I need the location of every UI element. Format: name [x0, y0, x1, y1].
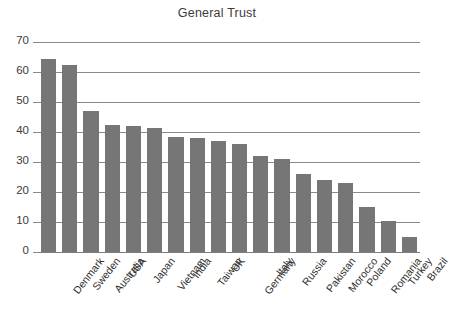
bar-slot	[187, 42, 208, 252]
bar[interactable]	[126, 126, 141, 252]
y-tick-label: 30	[16, 154, 29, 166]
bar[interactable]	[168, 137, 183, 253]
bar[interactable]	[359, 207, 374, 252]
bar[interactable]	[83, 111, 98, 252]
bar[interactable]	[105, 125, 120, 253]
bar-slot	[102, 42, 123, 252]
bar[interactable]	[41, 59, 56, 253]
bar[interactable]	[62, 65, 77, 253]
bar[interactable]	[317, 180, 332, 252]
bar-slot	[229, 42, 250, 252]
bar[interactable]	[402, 237, 417, 252]
bar[interactable]	[381, 221, 396, 253]
plot-area	[38, 42, 420, 252]
x-axis: DenmarkSwedenAustraliaUSAJapanVietnamInd…	[38, 253, 420, 323]
y-tick-label: 0	[23, 244, 29, 256]
bar[interactable]	[296, 174, 311, 252]
bar[interactable]	[274, 159, 289, 252]
bar-slot	[59, 42, 80, 252]
x-tick-label: Japan	[149, 255, 176, 285]
bar-slot	[208, 42, 229, 252]
bar-slot	[378, 42, 399, 252]
bar-slot	[399, 42, 420, 252]
bar-slot	[271, 42, 292, 252]
bar-slot	[314, 42, 335, 252]
bar[interactable]	[338, 183, 353, 252]
bar-slot	[80, 42, 101, 252]
y-tick-label: 50	[16, 94, 29, 106]
bar[interactable]	[211, 141, 226, 252]
bar-slot	[144, 42, 165, 252]
bar-slot	[356, 42, 377, 252]
bar[interactable]	[232, 144, 247, 252]
bar-slot	[335, 42, 356, 252]
y-tick-label: 60	[16, 64, 29, 76]
bar[interactable]	[253, 156, 268, 252]
bar-slot	[250, 42, 271, 252]
bar[interactable]	[147, 128, 162, 253]
y-tick-label: 70	[16, 34, 29, 46]
bar-slot	[123, 42, 144, 252]
bar-slot	[165, 42, 186, 252]
x-tick-label: Russia	[299, 255, 328, 288]
bar-slot	[38, 42, 59, 252]
y-axis: 706050403020100	[0, 42, 38, 253]
bar-slot	[293, 42, 314, 252]
y-tick-label: 10	[16, 214, 29, 226]
chart-title: General Trust	[0, 6, 434, 20]
bar[interactable]	[190, 138, 205, 252]
y-tick-label: 20	[16, 184, 29, 196]
y-tick-label: 40	[16, 124, 29, 136]
